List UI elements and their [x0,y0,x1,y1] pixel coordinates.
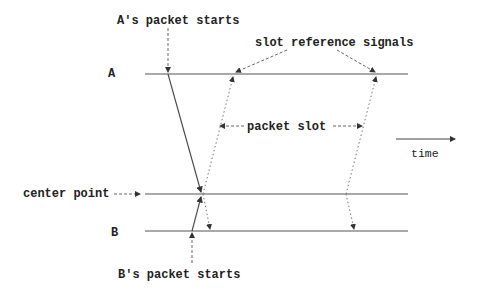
time-label: time [411,147,439,160]
b-packet-propagation [192,197,201,231]
a-packet-propagation [168,74,201,192]
slot-reference-signals-label: slot reference signals [255,36,413,50]
slot-ref-right-up [346,77,376,194]
slot-ref-left-up [203,77,233,194]
packet-slot-label: packet slot [247,120,326,134]
slot-ref-arrow-left [236,50,287,72]
node-a-label: A [108,67,116,81]
center-point-label: center point [23,187,109,201]
slot-ref-right-down [346,194,354,229]
a-packet-starts-label: A's packet starts [117,14,239,28]
node-b-label: B [111,226,118,240]
slot-ref-left-down [203,194,210,229]
slot-ref-arrow-right [337,50,375,72]
packet-slot-timing-diagram: A's packet starts slot reference signals… [0,0,479,293]
b-packet-starts-label: B's packet starts [118,268,240,282]
